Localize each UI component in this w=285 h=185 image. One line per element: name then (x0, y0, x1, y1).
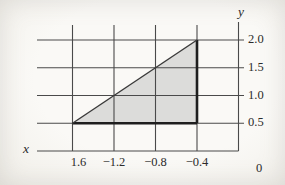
x-tick-label: −0.4 (186, 156, 209, 169)
y-tick-label: 0.5 (248, 116, 264, 129)
x-tick-label: 1.6 (71, 156, 87, 169)
coordinate-grid (0, 0, 285, 185)
y-tick-label: 2.0 (248, 33, 264, 46)
x-tick-label: −1.2 (103, 156, 126, 169)
figure: x y 1.6 −1.2 −0.8 −0.4 0 2.0 1.5 1.0 0.5 (0, 0, 285, 185)
origin-tick-label: 0 (256, 162, 262, 175)
x-axis-label: x (23, 142, 29, 155)
y-axis-label: y (238, 5, 244, 18)
x-tick-label: −0.8 (144, 156, 167, 169)
y-tick-label: 1.0 (248, 89, 264, 102)
y-tick-label: 1.5 (248, 61, 264, 74)
